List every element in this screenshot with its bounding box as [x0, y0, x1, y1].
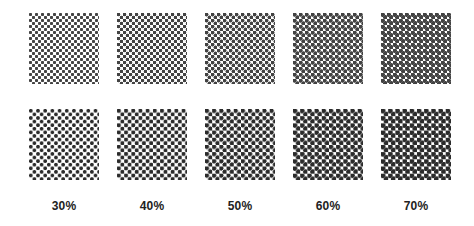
label-50: 50% — [205, 199, 275, 213]
swatch-coarse-50 — [205, 109, 275, 180]
swatch-fine-50 — [205, 13, 275, 84]
swatch-coarse-60 — [293, 109, 363, 180]
label-70: 70% — [381, 199, 451, 213]
label-60: 60% — [293, 199, 363, 213]
swatch-fine-60 — [293, 13, 363, 84]
swatch-coarse-40 — [117, 109, 187, 180]
swatch-coarse-70 — [381, 109, 451, 180]
swatch-fine-70 — [381, 13, 451, 84]
swatch-fine-30 — [29, 13, 99, 84]
label-40: 40% — [117, 199, 187, 213]
label-30: 30% — [29, 199, 99, 213]
swatch-fine-40 — [117, 13, 187, 84]
swatch-coarse-30 — [29, 109, 99, 180]
